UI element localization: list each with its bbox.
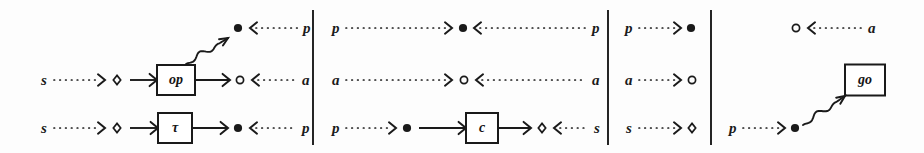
node-diamond: [113, 123, 120, 132]
box-label-go: go: [858, 72, 872, 88]
node-diamond: [538, 123, 545, 132]
port-label-s: s: [594, 120, 600, 137]
node-filled-circle: [234, 24, 242, 32]
node-diamond: [113, 75, 120, 84]
port-label-p: p: [332, 120, 340, 137]
port-label-p: p: [729, 120, 737, 137]
port-label-a: a: [332, 72, 340, 89]
port-label-a: a: [592, 72, 600, 89]
node-diamond: [688, 123, 695, 132]
arrowhead-right: [389, 122, 396, 133]
arrowhead-right: [98, 122, 105, 133]
arrowhead-right: [98, 74, 105, 85]
process-port-diagram: psopasτpppaapcspasagop: [0, 0, 924, 153]
box-label-c: c: [479, 120, 485, 136]
diagram-canvas: [0, 0, 924, 153]
node-filled-circle: [791, 124, 799, 132]
port-label-a: a: [868, 20, 876, 37]
port-label-s: s: [41, 72, 47, 89]
go-spawn-arrow-shaft: [803, 96, 845, 125]
port-label-p: p: [303, 20, 311, 37]
port-label-p: p: [302, 120, 310, 137]
node-open-circle: [688, 76, 695, 83]
node-open-circle: [792, 24, 799, 31]
node-filled-circle: [687, 24, 695, 32]
port-label-p: p: [592, 20, 600, 37]
port-label-a: a: [302, 72, 310, 89]
box-label-op: op: [169, 72, 183, 88]
node-open-circle: [236, 76, 243, 83]
port-label-p: p: [625, 20, 633, 37]
node-filled-circle: [403, 124, 411, 132]
node-filled-circle: [459, 24, 467, 32]
port-label-s: s: [626, 120, 632, 137]
port-label-s: s: [41, 120, 47, 137]
box-label-τ: τ: [172, 120, 178, 136]
node-open-circle: [460, 76, 467, 83]
port-label-p: p: [332, 20, 340, 37]
node-filled-circle: [234, 124, 242, 132]
port-label-a: a: [625, 72, 633, 89]
op-spawn-arrow-shaft: [186, 38, 228, 64]
